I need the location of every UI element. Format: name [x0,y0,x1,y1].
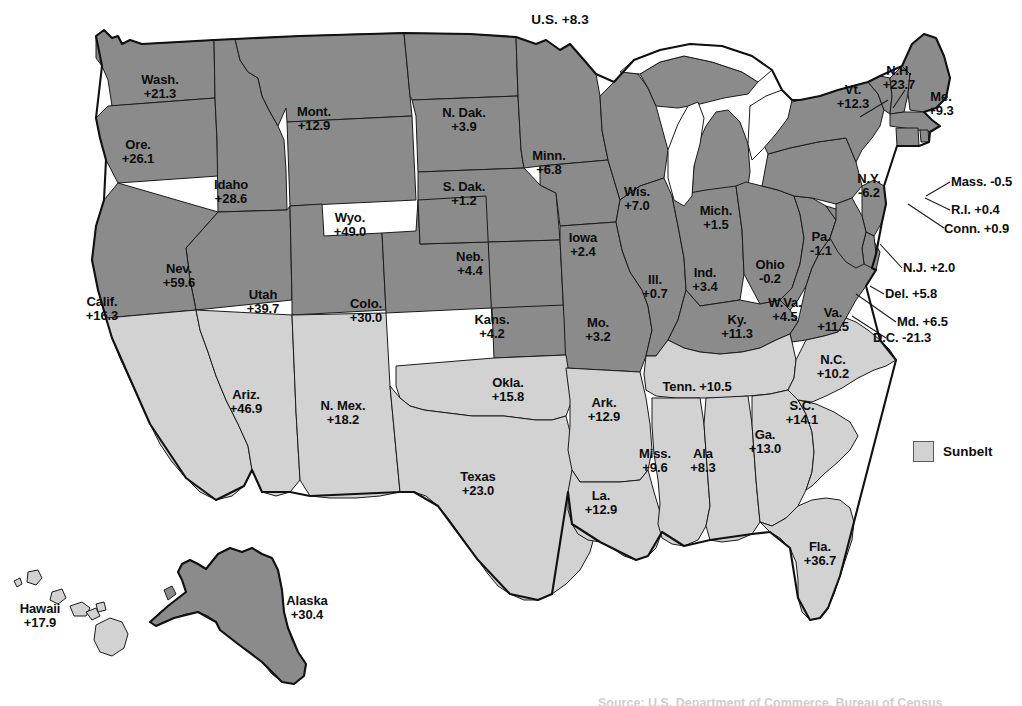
state-label-va: Va.+11.5 [817,306,849,333]
state-value-hi: +17.9 [20,616,61,630]
state-value-ms: +9.6 [639,461,671,475]
state-label-ms: Miss.+9.6 [639,447,671,474]
state-value-mo: +3.2 [585,330,610,344]
state-value-wy: +49.0 [334,225,366,239]
state-value-me: +9.3 [928,104,953,118]
state-label-il: Ill.+0.7 [642,273,667,300]
state-label-ny: N.Y.-6.2 [857,172,880,199]
state-label-la: La.+12.9 [585,489,617,516]
state-value-ga: +13.0 [749,442,781,456]
state-value-nv: +59.6 [163,276,195,290]
state-name-mt: Mont. [297,105,331,119]
state-label-ar: Ark.+12.9 [588,396,620,423]
state-value-in: +3.4 [692,280,717,294]
state-name-or: Ore. [122,138,154,152]
source-note: Source: U.S. Department of Commerce, Bur… [598,697,1022,706]
state-value-ok: +15.8 [492,390,524,404]
state-label-ky: Ky.+11.3 [721,313,753,340]
state-label-ak: Alaska+30.4 [286,594,327,621]
state-value-mt: +12.9 [297,119,331,133]
state-value-il: +0.7 [642,287,667,301]
state-label-sd: S. Dak.+1.2 [443,180,486,207]
state-label-nm: N. Mex.+18.2 [321,399,366,426]
state-label-or: Ore.+26.1 [122,138,154,165]
state-label-nv: Nev.+59.6 [163,262,195,289]
state-label-me: Me.+9.3 [928,90,953,117]
state-value-nc: +10.2 [817,367,849,381]
state-label-ia: Iowa+2.4 [569,231,598,258]
state-shape-hi-6 [96,602,106,612]
state-label-ma: Mass. -0.5 [951,175,1012,189]
state-name-dc: D.C. -21.3 [873,331,931,345]
state-value-oh: -0.2 [755,272,784,286]
legend-swatch-sunbelt [913,441,934,462]
state-label-hi: Hawaii+17.9 [20,602,61,629]
state-value-mn: +6.8 [532,163,565,177]
state-value-ky: +11.3 [721,327,753,341]
state-value-nd: +3.9 [442,120,485,134]
state-value-vt: +12.3 [837,97,869,111]
state-label-al: Ala+8.3 [690,447,715,474]
state-name-mi: Mich. [700,204,733,218]
state-name-wv: W.Va. [768,296,801,310]
state-name-la: La. [585,489,617,503]
state-label-id: Idaho+28.6 [214,178,248,205]
state-label-tn: Tenn. +10.5 [662,380,731,394]
state-label-pa: Pa.-1.1 [810,230,832,257]
state-value-nm: +18.2 [321,413,366,427]
state-name-ga: Ga. [749,428,781,442]
state-name-ma: Mass. -0.5 [951,175,1012,189]
state-name-al: Ala [690,447,715,461]
state-label-in: Ind.+3.4 [692,266,717,293]
state-label-mi: Mich.+1.5 [700,204,733,231]
state-label-az: Ariz.+46.9 [230,388,262,415]
state-shape-ak [150,548,306,684]
state-shape-hi-big [94,618,128,656]
state-name-ms: Miss. [639,447,671,461]
state-label-ri: R.I. +0.4 [951,203,1000,217]
state-label-sc: S.C.+14.1 [786,399,818,426]
state-shape-hi-2 [27,570,42,585]
state-value-ut: +39.7 [247,302,279,316]
title-text: U.S. +8.3 [531,12,589,27]
state-label-nj: N.J. +2.0 [903,261,955,275]
state-value-wa: +21.3 [141,87,178,101]
state-label-ca: Calif.+16.3 [86,295,118,322]
state-name-fl: Fla. [804,540,836,554]
state-name-ne: Neb. [456,250,484,264]
state-name-id: Idaho [214,178,248,192]
state-name-hi: Hawaii [20,602,61,616]
state-value-ne: +4.4 [456,264,484,278]
leader-line-ma [926,182,950,196]
state-shape-ri [920,130,929,142]
state-label-wi: Wis.+7.0 [624,185,650,212]
state-label-wv: W.Va.+4.5 [768,296,801,323]
state-label-tx: Texas+23.0 [460,470,495,497]
state-name-mo: Mo. [585,316,610,330]
state-label-de: Del. +5.8 [885,287,937,301]
state-name-wi: Wis. [624,185,650,199]
state-label-ga: Ga.+13.0 [749,428,781,455]
state-name-ut: Utah [247,288,279,302]
state-value-ks: +4.2 [475,327,510,341]
state-value-va: +11.5 [817,320,849,334]
state-label-mo: Mo.+3.2 [585,316,610,343]
state-value-az: +46.9 [230,402,262,416]
state-value-ar: +12.9 [588,410,620,424]
state-value-al: +8.3 [690,461,715,475]
leader-line-de [870,286,884,294]
state-name-ks: Kans. [475,313,510,327]
state-name-ia: Iowa [569,231,598,245]
page-title: U.S. +8.3 [531,13,589,27]
state-name-ak: Alaska [286,594,327,608]
state-name-pa: Pa. [810,230,832,244]
state-value-ak: +30.4 [286,608,327,622]
state-shape-hi-1 [14,578,22,587]
state-name-nj: N.J. +2.0 [903,261,955,275]
state-name-ca: Calif. [86,295,118,309]
state-value-co: +30.0 [350,311,382,325]
state-label-ut: Utah+39.7 [247,288,279,315]
state-label-wy: Wyo.+49.0 [334,211,366,238]
state-name-ky: Ky. [721,313,753,327]
leader-line-nj [880,244,902,268]
